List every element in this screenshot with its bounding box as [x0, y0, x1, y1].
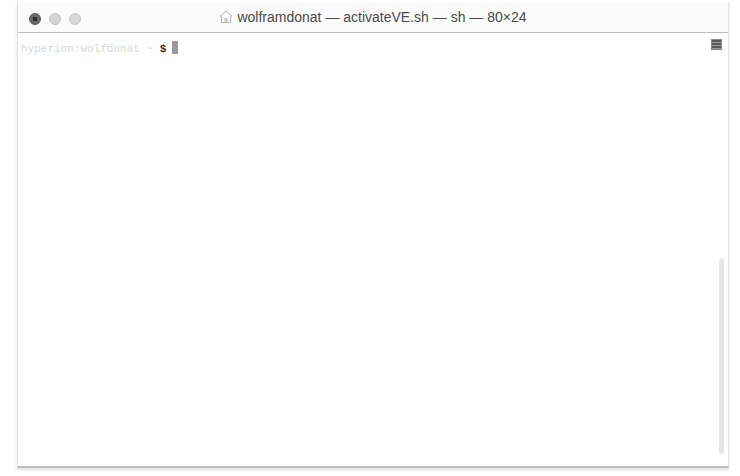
- vertical-scrollbar[interactable]: [716, 53, 726, 462]
- terminal-content[interactable]: hyperion:wolfdonat ~ $: [18, 33, 728, 466]
- title-bar[interactable]: wolframdonat — activateVE.sh — sh — 80×2…: [18, 2, 728, 33]
- split-pane-icon[interactable]: [711, 39, 722, 50]
- prompt-prefix: hyperion:wolfdonat ~: [21, 43, 160, 55]
- terminal-window: wolframdonat — activateVE.sh — sh — 80×2…: [17, 2, 729, 468]
- scrollbar-thumb[interactable]: [719, 258, 724, 454]
- text-cursor: [172, 41, 178, 54]
- prompt-symbol: $: [160, 43, 167, 55]
- prompt-line: hyperion:wolfdonat ~ $: [21, 41, 178, 56]
- home-folder-icon[interactable]: [219, 10, 233, 24]
- window-title-text: wolframdonat — activateVE.sh — sh — 80×2…: [237, 9, 526, 25]
- window-title: wolframdonat — activateVE.sh — sh — 80×2…: [18, 9, 728, 25]
